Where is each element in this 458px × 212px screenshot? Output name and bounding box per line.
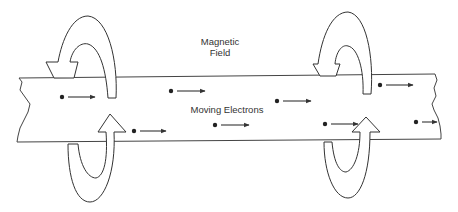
electron: [132, 129, 166, 133]
wire-right-broken-end: [432, 74, 441, 139]
electron-dot: [275, 99, 279, 103]
electron: [213, 123, 249, 127]
electrons-label: Moving Electrons: [191, 104, 264, 115]
field-loop-right-upper: [313, 12, 372, 94]
electron-dot: [323, 122, 327, 126]
electron: [169, 89, 205, 93]
wire-bottom-edge: [17, 139, 441, 142]
electron-dot: [169, 89, 173, 93]
electron-dot: [414, 120, 418, 124]
electron-dot: [213, 123, 217, 127]
electron-dot: [132, 129, 136, 133]
field-loop-left-lower: [68, 114, 126, 202]
electron: [323, 122, 358, 126]
wire-left-broken-end: [17, 78, 30, 142]
magnetic-field-diagram: Magnetic Field Moving Electrons: [0, 0, 458, 212]
electron: [414, 120, 437, 124]
wire-top-edge: [19, 74, 435, 78]
electron: [378, 83, 413, 87]
electron: [60, 95, 95, 99]
electron: [275, 99, 311, 103]
magnetic-label-line1: Magnetic: [201, 36, 240, 47]
magnetic-label-line2: Field: [210, 47, 231, 58]
field-loop-left-upper: [46, 16, 116, 98]
electron-dot: [60, 95, 64, 99]
field-loop-right-lower: [324, 117, 380, 198]
electron-dot: [378, 83, 382, 87]
